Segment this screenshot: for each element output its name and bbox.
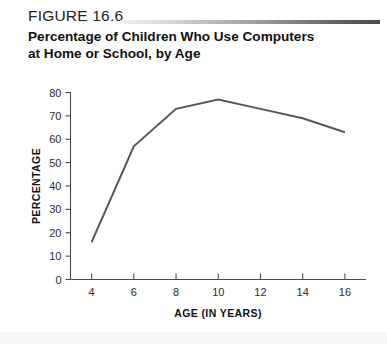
y-tick-label: 70: [49, 110, 61, 122]
y-tick-label: 50: [49, 157, 61, 169]
x-tick-label: 4: [89, 286, 95, 298]
y-tick-label: 80: [49, 87, 61, 99]
x-axis-title: AGE (IN YEARS): [174, 307, 262, 319]
chart-svg: 01020304050607080 46810121416 PERCENTAGE…: [0, 0, 387, 344]
x-tick-label: 12: [254, 286, 266, 298]
y-tick-label: 20: [49, 227, 61, 239]
x-tick-label: 14: [297, 286, 309, 298]
x-tick-label: 10: [212, 286, 224, 298]
x-tick-label: 16: [339, 286, 351, 298]
x-axis-ticks: 46810121416: [89, 274, 351, 298]
y-axis-ticks: 01020304050607080: [49, 87, 70, 286]
y-tick-label: 10: [49, 250, 61, 262]
y-tick-label: 0: [55, 274, 61, 286]
y-tick-label: 60: [49, 133, 61, 145]
data-series-line: [92, 100, 345, 243]
y-tick-label: 30: [49, 203, 61, 215]
line-chart: 01020304050607080 46810121416 PERCENTAGE…: [0, 0, 387, 344]
y-tick-label: 40: [49, 180, 61, 192]
x-tick-label: 8: [173, 286, 179, 298]
y-axis-title: PERCENTAGE: [30, 148, 42, 224]
x-tick-label: 6: [131, 286, 137, 298]
